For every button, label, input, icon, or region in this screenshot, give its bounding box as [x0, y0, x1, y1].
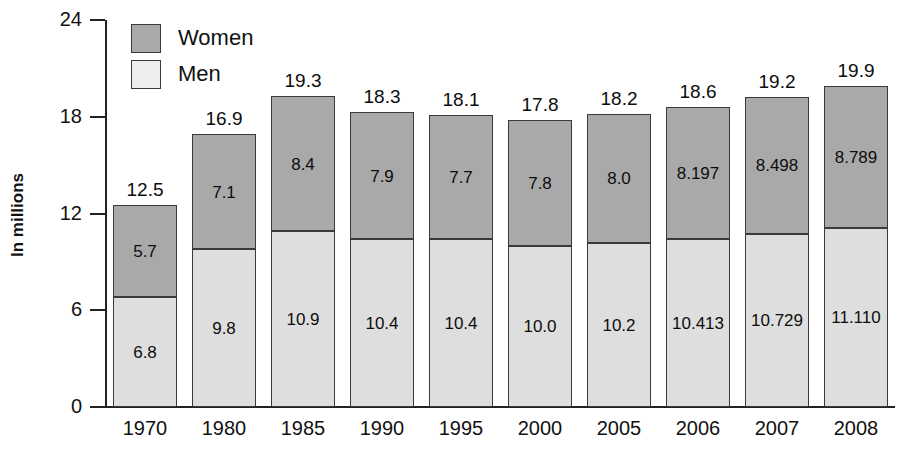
y-tick-24 [90, 19, 105, 21]
y-tick-12 [90, 213, 105, 215]
stacked-bar-chart: 06121824 In millions 1970198019851990199… [0, 0, 909, 455]
bar-value-women-2006: 8.197 [667, 165, 729, 183]
legend-swatch-women-icon [131, 24, 161, 53]
bar-value-women-2005: 8.0 [588, 170, 650, 188]
bar-group-2000[interactable]: 10.07.817.8 [508, 0, 572, 455]
bar-value-women-1995: 7.7 [430, 169, 492, 187]
y-tick-6 [90, 309, 105, 311]
bar-segment-men-1970[interactable]: 6.8 [113, 297, 177, 407]
bar-segment-men-1985[interactable]: 10.9 [271, 231, 335, 407]
bar-value-men-2008: 11.110 [825, 309, 887, 327]
bar-value-men-1980: 9.8 [193, 320, 255, 338]
bar-value-men-2006: 10.413 [667, 315, 729, 333]
legend-label-men: Men [178, 59, 221, 89]
bar-segment-women-1970[interactable]: 5.7 [113, 205, 177, 297]
bar-value-women-2007: 8.498 [746, 157, 808, 175]
bar-group-2005[interactable]: 10.28.018.2 [587, 0, 651, 455]
bar-group-2007[interactable]: 10.7298.49819.2 [745, 0, 809, 455]
bar-total-label-1995: 18.1 [429, 90, 493, 110]
bar-total-label-1980: 16.9 [192, 109, 256, 129]
bar-segment-men-2000[interactable]: 10.0 [508, 246, 572, 407]
bar-value-women-1970: 5.7 [114, 243, 176, 261]
y-axis-line [105, 20, 107, 408]
bar-total-label-2007: 19.2 [745, 72, 809, 92]
bar-value-women-1990: 7.9 [351, 168, 413, 186]
bar-total-label-2008: 19.9 [824, 61, 888, 81]
bar-value-women-2000: 7.8 [509, 175, 571, 193]
bar-value-men-1985: 10.9 [272, 311, 334, 329]
bar-value-women-2008: 8.789 [825, 149, 887, 167]
bar-group-2006[interactable]: 10.4138.19718.6 [666, 0, 730, 455]
bar-value-men-2007: 10.729 [746, 312, 808, 330]
bar-segment-women-2008[interactable]: 8.789 [824, 86, 888, 228]
bar-value-men-1990: 10.4 [351, 315, 413, 333]
bar-value-men-1970: 6.8 [114, 344, 176, 362]
bar-segment-women-2006[interactable]: 8.197 [666, 107, 730, 239]
bar-segment-women-2007[interactable]: 8.498 [745, 97, 809, 234]
bar-group-1995[interactable]: 10.47.718.1 [429, 0, 493, 455]
bar-segment-women-1985[interactable]: 8.4 [271, 96, 335, 231]
legend-swatch-men-icon [131, 60, 161, 89]
bar-total-label-2000: 17.8 [508, 95, 572, 115]
bar-segment-men-1980[interactable]: 9.8 [192, 249, 256, 407]
bar-group-1990[interactable]: 10.47.918.3 [350, 0, 414, 455]
y-tick-0 [90, 406, 105, 408]
y-tick-label-12: 12 [40, 203, 82, 223]
bar-segment-men-2008[interactable]: 11.110 [824, 228, 888, 407]
bar-total-label-2005: 18.2 [587, 89, 651, 109]
legend-label-women: Women [178, 23, 253, 53]
bar-total-label-1990: 18.3 [350, 87, 414, 107]
bar-segment-women-1995[interactable]: 7.7 [429, 115, 493, 239]
bar-value-women-1985: 8.4 [272, 156, 334, 174]
bar-segment-men-2005[interactable]: 10.2 [587, 243, 651, 407]
y-tick-label-6: 6 [40, 299, 82, 319]
bar-segment-women-1980[interactable]: 7.1 [192, 134, 256, 248]
bar-segment-women-1990[interactable]: 7.9 [350, 112, 414, 239]
y-tick-18 [90, 116, 105, 118]
y-tick-label-0: 0 [40, 396, 82, 416]
bar-total-label-1970: 12.5 [113, 180, 177, 200]
bar-group-2008[interactable]: 11.1108.78919.9 [824, 0, 888, 455]
bar-segment-men-2007[interactable]: 10.729 [745, 234, 809, 407]
bar-value-men-1995: 10.4 [430, 315, 492, 333]
bar-segment-women-2000[interactable]: 7.8 [508, 120, 572, 246]
bar-segment-men-1990[interactable]: 10.4 [350, 239, 414, 407]
bar-group-1985[interactable]: 10.98.419.3 [271, 0, 335, 455]
y-axis-title: In millions [8, 145, 28, 285]
bar-total-label-2006: 18.6 [666, 82, 730, 102]
bar-value-women-1980: 7.1 [193, 184, 255, 202]
bar-value-men-2000: 10.0 [509, 318, 571, 336]
bar-segment-men-1995[interactable]: 10.4 [429, 239, 493, 407]
bar-total-label-1985: 19.3 [271, 71, 335, 91]
bar-segment-men-2006[interactable]: 10.413 [666, 239, 730, 407]
bar-segment-women-2005[interactable]: 8.0 [587, 114, 651, 243]
y-tick-label-18: 18 [40, 106, 82, 126]
bar-value-men-2005: 10.2 [588, 317, 650, 335]
y-tick-label-24: 24 [40, 9, 82, 29]
